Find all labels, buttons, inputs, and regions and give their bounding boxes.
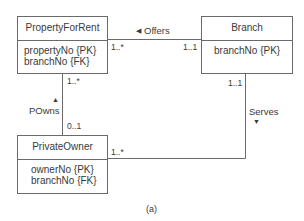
multiplicity-powns-privateowner: 0..1 [67, 121, 81, 131]
class-name-branch: Branch [202, 17, 292, 41]
class-property-for-rent: PropertyForRent propertyNo {PK} branchNo… [17, 16, 108, 74]
class-private-owner: PrivateOwner ownerNo {PK} branchNo {FK} [17, 135, 108, 194]
association-label-powns: POwns [29, 105, 60, 116]
triangle-left-icon: ◀ [136, 27, 141, 34]
multiplicity-serves-privateowner: 1..* [111, 147, 124, 157]
class-name-property-for-rent: PropertyForRent [18, 17, 107, 41]
class-attributes-branch: branchNo {PK} [202, 45, 292, 56]
serves-association-line [107, 73, 246, 159]
class-name-private-owner: PrivateOwner [18, 136, 107, 160]
association-label-serves: Serves [249, 106, 279, 117]
multiplicity-offers-branch: 1..1 [183, 42, 197, 52]
uml-class-diagram: PropertyForRent propertyNo {PK} branchNo… [0, 0, 304, 221]
attribute: propertyNo {PK} [24, 45, 107, 56]
attribute: branchNo {PK} [214, 45, 292, 56]
class-attributes-property-for-rent: propertyNo {PK} branchNo {FK} [18, 45, 107, 67]
association-name: Offers [144, 25, 170, 36]
attribute: ownerNo {PK} [31, 164, 107, 175]
attribute: branchNo {FK} [24, 56, 107, 67]
class-attributes-private-owner: ownerNo {PK} branchNo {FK} [18, 164, 107, 186]
multiplicity-offers-propertyforrent: 1..* [111, 42, 124, 52]
class-branch: Branch branchNo {PK} [201, 16, 293, 74]
association-label-offers: ◀Offers [136, 25, 170, 36]
triangle-up-icon: ▲ [52, 96, 59, 103]
attribute: branchNo {FK} [31, 175, 107, 186]
multiplicity-serves-branch: 1..1 [228, 78, 242, 88]
figure-caption: (a) [146, 204, 157, 214]
triangle-down-icon: ▼ [253, 118, 260, 125]
multiplicity-powns-propertyforrent: 1..* [67, 76, 80, 86]
